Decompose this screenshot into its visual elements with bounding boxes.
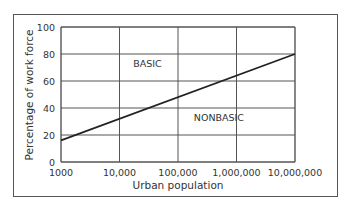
y-tick-label: 80 [43, 49, 55, 60]
y-tick-label: 40 [43, 103, 55, 114]
y-tick-label: 0 [49, 157, 55, 168]
y-tick-label: 60 [43, 76, 55, 87]
grid [61, 27, 295, 162]
tick-labels: 020406080100100010,000100,0001,000,00010… [37, 22, 322, 179]
y-tick-label: 20 [43, 130, 55, 141]
annotation-basic: BASIC [133, 58, 162, 69]
x-tick-label: 10,000,000 [268, 167, 322, 178]
y-tick-label: 100 [37, 22, 55, 33]
x-tick-label: 100,000 [158, 167, 197, 178]
annotation-nonbasic: NONBASIC [194, 112, 245, 123]
chart: 020406080100100010,000100,0001,000,00010… [0, 0, 349, 208]
y-axis-label: Percentage of work force [23, 29, 35, 160]
x-tick-label: 10,000 [103, 167, 136, 178]
x-axis-label: Urban population [133, 179, 224, 191]
x-tick-label: 1000 [49, 167, 73, 178]
x-tick-label: 1,000,000 [212, 167, 260, 178]
